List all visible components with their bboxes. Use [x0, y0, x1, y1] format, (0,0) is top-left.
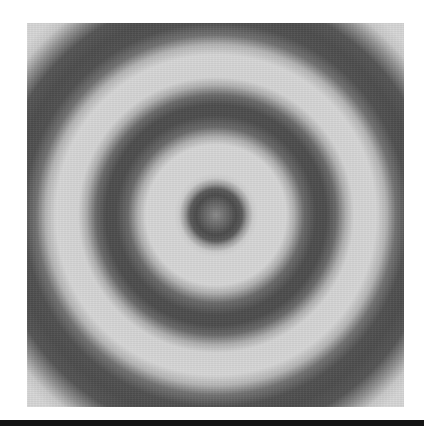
concentric-rings: [27, 23, 404, 407]
bottom-border-bar: [0, 420, 424, 426]
ring-pattern-image: [27, 23, 404, 407]
